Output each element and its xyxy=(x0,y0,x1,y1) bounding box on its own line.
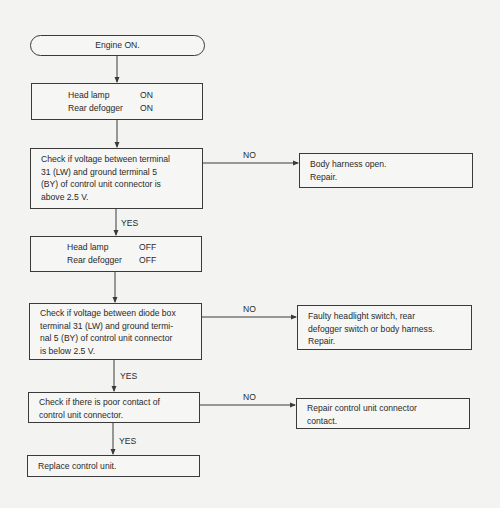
row-head-lamp: Head lamp ON xyxy=(32,89,202,102)
check2-no-result: Faulty headlight switch, rear defogger s… xyxy=(297,305,472,350)
end-step: Replace control unit. xyxy=(27,455,200,477)
check2-line: Check if voltage between diode box xyxy=(40,307,191,320)
result-line: defogger switch or body harness. xyxy=(308,323,461,336)
check1-decision: Check if voltage between terminal 31 (LW… xyxy=(30,148,203,209)
rear-defogger-value: OFF xyxy=(139,254,156,267)
head-lamp-value: ON xyxy=(140,89,153,102)
result-line: Repair. xyxy=(310,171,462,184)
check3-line: control unit connector. xyxy=(39,409,189,422)
rear-defogger-label: Rear defogger xyxy=(68,102,140,115)
head-lamp-label: Head lamp xyxy=(68,89,140,102)
check1-yes-label: YES xyxy=(121,218,138,228)
check3-no-result: Repair control unit connector contact. xyxy=(296,398,470,429)
result-line: Repair control unit connector xyxy=(307,402,459,415)
check1-line: (BY) of control unit connector is xyxy=(41,178,192,191)
check2-line: is below 2.5 V. xyxy=(40,345,191,358)
check1-line: above 2.5 V. xyxy=(41,191,192,204)
start-terminal: Engine ON. xyxy=(30,35,205,56)
check3-yes-label: YES xyxy=(119,436,136,446)
step-lamps-off: Head lamp OFF Rear defogger OFF xyxy=(30,236,202,272)
head-lamp-value: OFF xyxy=(139,241,156,254)
check3-line: Check if there is poor contact of xyxy=(39,396,189,409)
end-label: Replace control unit. xyxy=(38,460,189,473)
result-line: Repair. xyxy=(308,335,461,348)
check1-no-label: NO xyxy=(243,150,256,160)
step-lamps-on: Head lamp ON Rear defogger ON xyxy=(31,83,203,120)
check1-line: Check if voltage between terminal xyxy=(41,153,192,166)
check3-no-label: NO xyxy=(243,392,256,402)
result-line: Faulty headlight switch, rear xyxy=(308,310,461,323)
check2-no-label: NO xyxy=(243,304,256,314)
check1-no-result: Body harness open. Repair. xyxy=(299,153,473,188)
result-line: contact. xyxy=(307,415,459,428)
check2-line: terminal 31 (LW) and ground termi- xyxy=(40,320,191,333)
result-line: Body harness open. xyxy=(310,158,462,171)
rear-defogger-label: Rear defogger xyxy=(67,254,139,267)
check3-decision: Check if there is poor contact of contro… xyxy=(28,392,200,423)
row-rear-defogger: Rear defogger OFF xyxy=(31,254,201,267)
check2-decision: Check if voltage between diode box termi… xyxy=(29,303,202,360)
check2-yes-label: YES xyxy=(120,371,137,381)
start-label: Engine ON. xyxy=(95,39,139,52)
row-head-lamp: Head lamp OFF xyxy=(31,241,201,254)
rear-defogger-value: ON xyxy=(140,102,153,115)
check1-line: 31 (LW) and ground terminal 5 xyxy=(41,166,192,179)
check2-line: nal 5 (BY) of control unit connector xyxy=(40,332,191,345)
row-rear-defogger: Rear defogger ON xyxy=(32,102,202,115)
head-lamp-label: Head lamp xyxy=(67,241,139,254)
